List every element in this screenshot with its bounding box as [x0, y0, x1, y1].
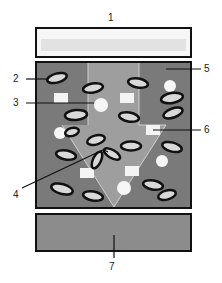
label-1: 1 — [108, 13, 114, 23]
label-4: 4 — [13, 190, 19, 200]
label-7: 7 — [109, 262, 115, 272]
label-5: 5 — [204, 64, 210, 74]
label-3: 3 — [13, 98, 19, 108]
label-6: 6 — [204, 125, 210, 135]
diagram-canvas — [0, 0, 222, 283]
label-2: 2 — [13, 74, 19, 84]
top-layer — [36, 28, 191, 57]
